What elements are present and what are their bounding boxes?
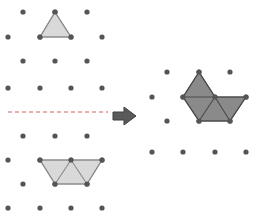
lattice-dot [5,205,10,210]
shape-vertex-dot [196,118,201,123]
lattice-dot [164,69,169,74]
lattice-dot [212,149,217,154]
lattice-dot [84,133,89,138]
lattice-dot [37,85,42,90]
lattice-dot [20,181,25,186]
lattice-dot [84,9,89,14]
shape-vertex-dot [52,9,57,14]
lattice-dot [68,85,73,90]
lattice-dot [164,118,169,123]
lattice-dot [84,58,89,63]
lattice-dot [5,85,10,90]
lattice-dot [20,9,25,14]
shape-vertex-dot [180,94,185,99]
lattice-dot [5,34,10,39]
shape-vertex-dot [227,118,232,123]
shape-vertex-dot [212,94,217,99]
lattice-dot [149,149,154,154]
shape-vertex-dot [68,34,73,39]
lattice-dot [180,149,185,154]
lattice-dot [20,133,25,138]
shape-vertex-dot [196,69,201,74]
lattice-dot [5,157,10,162]
shape-vertex-dot [243,94,248,99]
shape-vertex-dot [52,181,57,186]
lattice-dot [52,58,57,63]
lattice-dot [99,85,104,90]
shape-vertex-dot [99,157,104,162]
lattice-dot [99,205,104,210]
shape-vertex-dot [37,157,42,162]
lattice-dot [52,133,57,138]
shape-vertex-dot [37,34,42,39]
shape-vertex-dot [84,181,89,186]
figure-canvas [0,0,261,216]
lattice-dot [243,149,248,154]
lattice-dot [68,205,73,210]
figure-svg [0,0,261,216]
lattice-dot [20,58,25,63]
lattice-dot [37,205,42,210]
lattice-dot [149,94,154,99]
lattice-dot [99,34,104,39]
shape-vertex-dot [68,157,73,162]
lattice-dot [227,69,232,74]
